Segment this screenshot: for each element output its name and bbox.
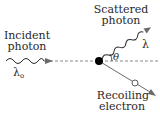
- recoil-arrow-head-icon: [148, 89, 156, 96]
- recoil-label-line2: electron: [99, 100, 145, 113]
- incident-wavelength-symbol: λ: [13, 66, 20, 79]
- recoiling-electron-open-circle: [132, 80, 138, 86]
- incident-arrow-head-icon: [45, 58, 53, 64]
- theta-angle-label: θ: [113, 51, 119, 62]
- recoil-electron-line: [99, 61, 150, 92]
- scattered-arrow-head-icon: [143, 25, 152, 34]
- scattered-label-line2: photon: [102, 14, 141, 27]
- electron-collision-dot: [95, 57, 103, 65]
- incident-wavelength-subscript: o: [20, 72, 24, 80]
- diagram-canvas: Incident photon λ o Scattered photon λ θ…: [0, 0, 160, 114]
- incident-label-line2: photon: [8, 40, 47, 53]
- scattered-photon-wave: [101, 30, 144, 60]
- incident-photon-wave: [6, 59, 44, 64]
- compton-diagram: Incident photon λ o Scattered photon λ θ…: [0, 0, 160, 114]
- scattered-wavelength-symbol: λ: [142, 38, 149, 51]
